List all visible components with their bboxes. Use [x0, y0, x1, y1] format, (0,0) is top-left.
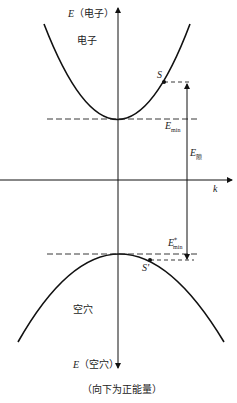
e-min-label: Emin — [165, 121, 180, 131]
electron-band-label: 电子 — [77, 36, 97, 46]
point-s-dot — [162, 80, 166, 84]
axis-bottom-label: E（空穴） — [73, 360, 119, 370]
point-s-prime-label: S' — [142, 263, 149, 273]
hole-band-label: 空穴 — [73, 305, 93, 315]
point-s-label: S — [157, 70, 162, 80]
e-min-hole-label: E*min — [168, 238, 182, 248]
hole-band-curve — [18, 254, 224, 342]
k-axis-label: k — [213, 184, 217, 194]
caption: （向下为正能量） — [82, 385, 162, 395]
electron-band-curve — [44, 24, 190, 120]
axis-top-label: E（电子） — [68, 9, 114, 19]
e-gap-label: E隙 — [190, 148, 202, 158]
band-diagram — [0, 0, 237, 403]
